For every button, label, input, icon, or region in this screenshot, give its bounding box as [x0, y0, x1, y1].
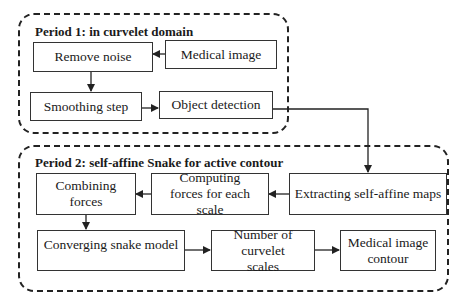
node-smoothing-step: Smoothing step	[30, 92, 142, 121]
node-remove-noise: Remove noise	[33, 42, 153, 72]
node-object-detection: Object detection	[159, 91, 273, 119]
node-number-scales: Number of curvelet scales	[211, 230, 315, 271]
node-combining-forces: Combining forces	[36, 173, 136, 215]
node-computing-forces: Computing forces for each scale	[151, 173, 269, 215]
node-extracting-maps: Extracting self-affine maps	[289, 173, 447, 215]
period2-title: Period 2: self-affine Snake for active c…	[35, 155, 283, 171]
node-medical-image-contour: Medical image contour	[340, 230, 436, 271]
node-converging-snake: Converging snake model	[37, 230, 185, 271]
node-medical-image: Medical image	[165, 40, 277, 69]
period1-title: Period 1: in curvelet domain	[35, 24, 193, 40]
